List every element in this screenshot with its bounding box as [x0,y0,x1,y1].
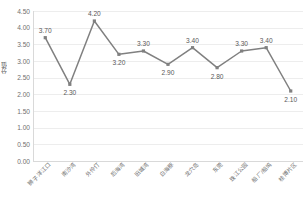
data-point-marker [68,83,71,86]
x-axis-tick-label-text: 东莞 [212,161,225,174]
x-axis-tick-label-text: 桂博片区 [277,161,299,183]
x-axis-tick-label-text: 狮子洋江口 [27,161,53,187]
data-point-label: 2.90 [162,69,175,76]
x-axis-tick-label-text: 龙穴岛 [183,161,200,178]
x-axis-tick-label: 白海豚 [158,161,175,178]
x-axis-tick-label-text: 南沙湾 [60,161,77,178]
data-point-marker [265,46,268,49]
data-point-label: 4.20 [88,10,101,17]
x-axis-tick-label: 东莞 [212,161,225,174]
x-axis-tick-label: 珠江公园 [228,161,250,183]
x-axis-tick-label-text: 后海湾 [109,161,126,178]
x-axis-tick-label: 狮子洋江口 [27,161,53,187]
x-axis-tick-label: 船厂/船坞 [251,161,274,184]
x-axis-tick-label: 南沙湾 [60,161,77,178]
data-point-label: 3.70 [39,27,52,34]
x-axis-tick-label-text: 船厂/船坞 [251,161,274,184]
y-axis-tick-label: 2.50 [8,74,30,81]
line-chart: 分值 0.000.501.001.502.002.503.003.504.004… [0,0,307,208]
x-axis-tick-label: 旧城湾 [134,161,151,178]
plot-area [33,11,303,161]
data-point-marker [191,46,194,49]
y-axis-tick-label: 4.50 [8,8,30,15]
data-point-label: 2.30 [63,89,76,96]
data-point-label: 3.40 [260,37,273,44]
data-point-marker [215,66,218,69]
y-axis-tick-label: 3.00 [8,58,30,65]
data-point-label: 2.80 [211,73,224,80]
x-axis-tick-label-text: 外伶仃 [85,161,102,178]
data-point-label: 3.30 [137,40,150,47]
y-axis-tick-label: 1.50 [8,108,30,115]
y-axis-tick-label: 4.00 [8,24,30,31]
data-point-marker [166,63,169,66]
y-axis-tick-label: 0.00 [8,158,30,165]
data-point-marker [44,36,47,39]
y-axis-tick-label: 2.00 [8,91,30,98]
y-axis-tick-label: 3.50 [8,41,30,48]
data-point-label: 3.30 [235,40,248,47]
data-point-marker [240,49,243,52]
data-point-label: 3.40 [186,37,199,44]
data-point-label: 2.10 [284,96,297,103]
data-point-marker [289,89,292,92]
y-axis-tick-label: 1.00 [8,124,30,131]
series-line [33,11,303,161]
x-axis-tick-label-text: 旧城湾 [134,161,151,178]
data-point-marker [117,53,120,56]
x-axis-tick-labels: 狮子洋江口南沙湾外伶仃后海湾旧城湾白海豚龙穴岛东莞珠江公园船厂/船坞桂博片区 [33,161,303,208]
y-axis-tick-label: 0.50 [8,141,30,148]
x-axis-tick-label-text: 白海豚 [158,161,175,178]
data-point-label: 3.20 [112,59,125,66]
x-axis-tick-label: 桂博片区 [277,161,299,183]
y-axis-tick-labels: 0.000.501.001.502.002.503.003.504.004.50 [8,0,30,208]
data-point-marker [93,19,96,22]
series-polyline [45,21,290,91]
data-point-marker [142,49,145,52]
x-axis-tick-label: 龙穴岛 [183,161,200,178]
x-axis-tick-label: 后海湾 [109,161,126,178]
x-axis-tick-label: 外伶仃 [85,161,102,178]
x-axis-tick-label-text: 珠江公园 [228,161,250,183]
